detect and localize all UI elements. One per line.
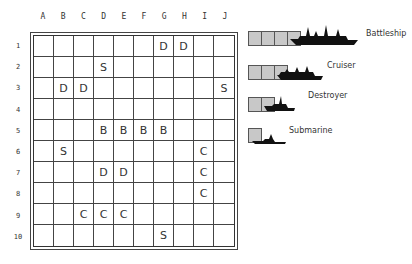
board-cell[interactable]	[134, 99, 154, 120]
board-cell[interactable]	[174, 183, 194, 204]
board-cell[interactable]	[54, 204, 74, 225]
board-cell[interactable]	[134, 57, 154, 78]
board-cell[interactable]	[194, 78, 214, 99]
board-cell[interactable]	[114, 36, 134, 57]
board-cell[interactable]	[54, 99, 74, 120]
board-cell[interactable]	[194, 120, 214, 141]
board-cell[interactable]	[114, 78, 134, 99]
board-cell[interactable]	[134, 162, 154, 183]
board-cell[interactable]	[114, 99, 134, 120]
board-cell[interactable]	[114, 141, 134, 162]
board-cell[interactable]	[194, 36, 214, 57]
board-cell[interactable]	[34, 36, 54, 57]
board-cell[interactable]	[74, 162, 94, 183]
board-cell[interactable]	[74, 99, 94, 120]
board-cell[interactable]	[54, 57, 74, 78]
board-cell[interactable]	[74, 36, 94, 57]
board-cell[interactable]	[214, 99, 234, 120]
board-cell[interactable]	[154, 141, 174, 162]
board-cell[interactable]: C	[114, 204, 134, 225]
board-cell[interactable]	[154, 57, 174, 78]
board-cell[interactable]: C	[74, 204, 94, 225]
board-cell[interactable]: B	[94, 120, 114, 141]
board-cell[interactable]	[54, 120, 74, 141]
board-cell[interactable]	[34, 141, 54, 162]
board-cell[interactable]: C	[194, 162, 214, 183]
board-cell[interactable]: S	[154, 225, 174, 246]
board-cell[interactable]: C	[194, 141, 214, 162]
board-cell[interactable]	[134, 78, 154, 99]
board-cell[interactable]	[34, 99, 54, 120]
board-cell[interactable]	[154, 183, 174, 204]
board-cell[interactable]: D	[114, 162, 134, 183]
board-cell[interactable]	[74, 225, 94, 246]
board-cell[interactable]	[54, 183, 74, 204]
board-cell[interactable]: B	[134, 120, 154, 141]
board-cell[interactable]	[94, 99, 114, 120]
board-cell[interactable]	[214, 204, 234, 225]
board-cell[interactable]: C	[194, 183, 214, 204]
board-cell[interactable]	[194, 99, 214, 120]
board-cell[interactable]: D	[94, 162, 114, 183]
board-cell[interactable]	[154, 162, 174, 183]
board-cell[interactable]	[194, 225, 214, 246]
board-cell[interactable]	[94, 141, 114, 162]
board-cell[interactable]	[74, 141, 94, 162]
board-cell[interactable]: B	[154, 120, 174, 141]
board-cell[interactable]	[174, 57, 194, 78]
board-cell[interactable]	[94, 36, 114, 57]
board-cell[interactable]	[34, 183, 54, 204]
board-cell[interactable]	[214, 57, 234, 78]
board-cell[interactable]	[134, 225, 154, 246]
board-cell[interactable]	[174, 78, 194, 99]
board-cell[interactable]	[194, 57, 214, 78]
board-cell[interactable]	[94, 225, 114, 246]
board-cell[interactable]	[154, 204, 174, 225]
board-cell[interactable]	[34, 78, 54, 99]
board-cell[interactable]	[34, 225, 54, 246]
board-cell[interactable]	[34, 120, 54, 141]
board-cell[interactable]: S	[214, 78, 234, 99]
board-cell[interactable]	[174, 225, 194, 246]
board-cell[interactable]	[134, 36, 154, 57]
board-cell[interactable]	[174, 99, 194, 120]
board-cell[interactable]	[54, 36, 74, 57]
board-cell[interactable]	[54, 225, 74, 246]
board-cell[interactable]: S	[94, 57, 114, 78]
board-cell[interactable]	[154, 99, 174, 120]
board-cell[interactable]	[174, 120, 194, 141]
board-cell[interactable]	[214, 141, 234, 162]
board-cell[interactable]: D	[174, 36, 194, 57]
board-cell[interactable]	[94, 183, 114, 204]
board-cell[interactable]	[174, 141, 194, 162]
board-cell[interactable]: B	[114, 120, 134, 141]
board-cell[interactable]: D	[154, 36, 174, 57]
board-cell[interactable]	[214, 36, 234, 57]
board-cell[interactable]	[114, 57, 134, 78]
board-cell[interactable]: D	[74, 78, 94, 99]
board-cell[interactable]	[134, 183, 154, 204]
board-cell[interactable]	[214, 225, 234, 246]
board-cell[interactable]	[114, 183, 134, 204]
board-cell[interactable]: C	[94, 204, 114, 225]
board-cell[interactable]	[194, 204, 214, 225]
board-cell[interactable]	[214, 162, 234, 183]
board-cell[interactable]	[34, 204, 54, 225]
board-cell[interactable]	[214, 183, 234, 204]
board-cell[interactable]	[74, 183, 94, 204]
board-cell[interactable]	[214, 120, 234, 141]
board-cell[interactable]	[134, 204, 154, 225]
board-cell[interactable]	[174, 162, 194, 183]
board-cell[interactable]	[74, 120, 94, 141]
board-cell[interactable]	[34, 162, 54, 183]
board-cell[interactable]	[114, 225, 134, 246]
board-cell[interactable]	[154, 78, 174, 99]
board-cell[interactable]	[94, 78, 114, 99]
board-cell[interactable]	[34, 57, 54, 78]
board-cell[interactable]	[74, 57, 94, 78]
board-cell[interactable]	[54, 162, 74, 183]
board-cell[interactable]: D	[54, 78, 74, 99]
board-cell[interactable]	[134, 141, 154, 162]
board-cell[interactable]: S	[54, 141, 74, 162]
board-cell[interactable]	[174, 204, 194, 225]
